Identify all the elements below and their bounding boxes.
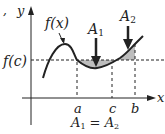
tick-label-c: c bbox=[109, 101, 117, 116]
x-axis-arrow-icon bbox=[147, 95, 156, 101]
mvt-diagram: , y x f(x) f(c) A1 A2 a c b A1 = A2 bbox=[0, 0, 165, 134]
stray-mark: , bbox=[3, 3, 7, 17]
a1-label: A1 bbox=[86, 21, 104, 38]
tick-label-a: a bbox=[74, 101, 82, 116]
curve-label: f(x) bbox=[44, 15, 69, 31]
y-axis-arrow-icon bbox=[28, 6, 34, 15]
fc-label: f(c) bbox=[2, 53, 27, 69]
area-equation: A1 = A2 bbox=[70, 115, 119, 131]
x-axis-label: x bbox=[157, 90, 165, 105]
y-axis-label: y bbox=[16, 3, 25, 18]
tick-label-b: b bbox=[131, 101, 139, 116]
a2-label: A2 bbox=[118, 8, 136, 25]
